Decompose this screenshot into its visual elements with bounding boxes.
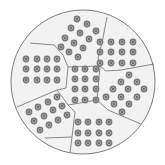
dot-core xyxy=(56,96,58,98)
dot-core xyxy=(33,120,35,122)
dot-core xyxy=(46,68,48,70)
dot-core xyxy=(61,105,63,107)
dot-core xyxy=(56,58,58,60)
dot-core xyxy=(70,27,72,29)
dot-core xyxy=(127,88,129,90)
dot-core xyxy=(98,121,100,123)
dot-core xyxy=(113,103,115,105)
dot-core xyxy=(98,142,100,144)
dot-core xyxy=(47,101,49,103)
dot-core xyxy=(120,96,122,98)
dot-core xyxy=(74,88,76,90)
dot-core xyxy=(136,96,138,98)
dot-core xyxy=(76,18,78,20)
dot-core xyxy=(108,121,110,123)
dot-core xyxy=(36,68,38,70)
dot-core xyxy=(98,132,100,134)
dot-core xyxy=(108,142,110,144)
dot-core xyxy=(86,23,88,25)
dot-core xyxy=(36,79,38,81)
dot-core xyxy=(121,41,123,43)
dot-core xyxy=(73,42,75,44)
dot-core xyxy=(95,78,97,80)
dot-core xyxy=(87,132,89,134)
dot-core xyxy=(132,41,134,43)
dot-core xyxy=(143,88,145,90)
dot-core xyxy=(95,30,97,32)
dot-core xyxy=(25,58,27,60)
dot-core xyxy=(84,88,86,90)
dot-core xyxy=(52,109,54,111)
dot-core xyxy=(77,121,79,123)
dot-core xyxy=(43,115,45,117)
dot-core xyxy=(36,58,38,60)
grain-diagram xyxy=(0,0,165,165)
dot-core xyxy=(48,124,50,126)
dot-core xyxy=(84,68,86,70)
dot-core xyxy=(112,88,114,90)
dot-core xyxy=(121,51,123,53)
dot-core xyxy=(77,56,79,58)
dot-core xyxy=(77,132,79,134)
dot-core xyxy=(68,51,70,53)
dot-core xyxy=(84,99,86,101)
dot-core xyxy=(95,99,97,101)
dot-core xyxy=(121,111,123,113)
dot-core xyxy=(95,88,97,90)
dot-core xyxy=(74,78,76,80)
dot-core xyxy=(108,132,110,134)
dot-core xyxy=(60,46,62,48)
dot-core xyxy=(95,68,97,70)
dot-core xyxy=(87,121,89,123)
dot-core xyxy=(56,79,58,81)
dot-core xyxy=(74,99,76,101)
dot-core xyxy=(39,129,41,131)
dot-core xyxy=(121,62,123,64)
dot-core xyxy=(28,111,30,113)
dot-core xyxy=(110,62,112,64)
dot-core xyxy=(132,62,134,64)
dot-core xyxy=(82,47,84,49)
dot-core xyxy=(84,78,86,80)
dot-core xyxy=(64,37,66,39)
dot-core xyxy=(110,51,112,53)
dot-core xyxy=(74,68,76,70)
dot-core xyxy=(132,51,134,53)
dot-core xyxy=(136,81,138,83)
dot-core xyxy=(99,62,101,64)
dot-core xyxy=(99,41,101,43)
dot-core xyxy=(77,142,79,144)
dot-core xyxy=(57,119,59,121)
dot-core xyxy=(120,81,122,83)
dot-core xyxy=(46,79,48,81)
dot-core xyxy=(105,96,107,98)
dot-core xyxy=(56,68,58,70)
dot-core xyxy=(110,41,112,43)
dot-core xyxy=(128,74,130,76)
dot-core xyxy=(88,38,90,40)
dot-core xyxy=(99,51,101,53)
dot-core xyxy=(37,106,39,108)
dot-core xyxy=(25,79,27,81)
dot-core xyxy=(128,103,130,105)
dot-core xyxy=(46,58,48,60)
dot-core xyxy=(87,142,89,144)
dot-core xyxy=(79,32,81,34)
dot-core xyxy=(66,114,68,116)
dot-core xyxy=(25,68,27,70)
